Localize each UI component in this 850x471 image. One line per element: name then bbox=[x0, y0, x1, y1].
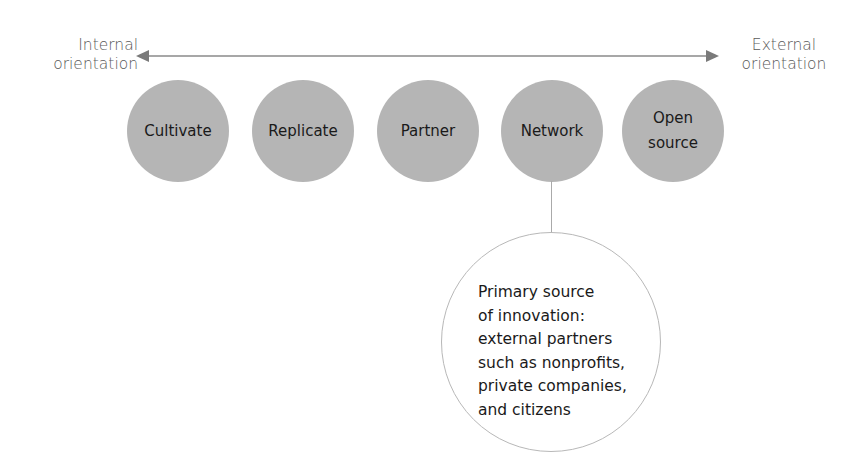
detail-text: Primary source of innovation: external p… bbox=[478, 281, 627, 422]
stage-label: Replicate bbox=[268, 119, 337, 144]
stage-label: Partner bbox=[401, 119, 456, 144]
detail-line: such as nonprofits, bbox=[478, 352, 627, 376]
detail-line: external partners bbox=[478, 328, 627, 352]
detail-line: and citizens bbox=[478, 399, 627, 423]
stage-partner: Partner bbox=[377, 80, 479, 182]
stage-network: Network bbox=[501, 80, 603, 182]
stage-label-line1: Open bbox=[648, 106, 698, 131]
right-axis-label-line1: External bbox=[722, 36, 846, 55]
stage-open-source: Open source bbox=[622, 80, 724, 182]
detail-line: of innovation: bbox=[478, 305, 627, 329]
stage-label: Network bbox=[521, 119, 584, 144]
stage-replicate: Replicate bbox=[252, 80, 354, 182]
arrowhead-right-icon bbox=[706, 50, 719, 62]
stage-label-line2: source bbox=[648, 131, 698, 156]
detail-line: Primary source bbox=[478, 281, 627, 305]
connector-line bbox=[551, 181, 552, 233]
arrowhead-left-icon bbox=[136, 50, 149, 62]
stage-label: Cultivate bbox=[144, 119, 211, 144]
right-axis-label-line2: orientation bbox=[722, 55, 846, 74]
right-axis-label: External orientation bbox=[722, 36, 846, 74]
detail-callout-circle: Primary source of innovation: external p… bbox=[441, 232, 661, 452]
stage-cultivate: Cultivate bbox=[127, 80, 229, 182]
detail-line: private companies, bbox=[478, 375, 627, 399]
